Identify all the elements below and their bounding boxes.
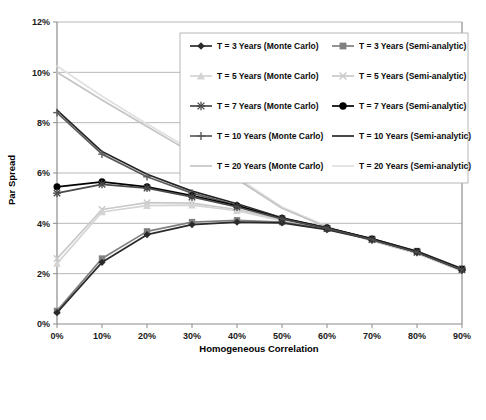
legend-entry-label: T = 3 Years (Semi-analytic)	[359, 41, 466, 51]
y-tick-label: 6%	[37, 168, 50, 178]
data-point-marker-star	[458, 266, 466, 274]
y-tick-label: 8%	[37, 118, 50, 128]
series-line	[57, 220, 462, 311]
legend-entry-label: T = 7 Years (Semi-analytic)	[359, 101, 466, 111]
legend-entry-label: T = 20 Years (Monte Carlo)	[217, 161, 324, 171]
chart-container: 0%2%4%6%8%10%12% 0%10%20%30%40%50%60%70%…	[0, 0, 486, 420]
x-tick-label: 20%	[138, 331, 156, 341]
data-point-marker-star	[53, 189, 61, 197]
legend-entry-label: T = 3 Years (Monte Carlo)	[217, 41, 319, 51]
series-line	[57, 222, 462, 313]
x-axis-title: Homogeneous Correlation	[199, 343, 318, 354]
y-tick-label: 2%	[37, 269, 50, 279]
data-point-marker-star	[413, 248, 421, 256]
series-line	[57, 182, 462, 269]
x-tick-label: 0%	[50, 331, 63, 341]
y-tick-label: 10%	[32, 68, 50, 78]
x-tick-label: 10%	[93, 331, 111, 341]
legend-entry-label: T = 10 Years (Monte Carlo)	[217, 131, 324, 141]
data-point-marker-circle	[339, 102, 346, 109]
x-tick-label: 50%	[273, 331, 291, 341]
data-point-marker-star	[278, 215, 286, 223]
y-tick-label: 0%	[37, 319, 50, 329]
chart-legend: T = 3 Years (Monte Carlo)T = 3 Years (Se…	[180, 33, 471, 183]
x-tick-label: 40%	[228, 331, 246, 341]
data-point-marker-square	[340, 43, 347, 50]
x-tick-label: 80%	[408, 331, 426, 341]
x-axis-tick-labels: 0%10%20%30%40%50%60%70%80%90%	[50, 331, 471, 341]
data-point-marker-star	[188, 193, 196, 201]
data-point-marker-star	[197, 102, 205, 110]
x-tick-label: 70%	[363, 331, 381, 341]
x-tick-label: 60%	[318, 331, 336, 341]
data-point-marker-plus	[143, 173, 151, 181]
y-tick-label: 12%	[32, 17, 50, 27]
series-line	[57, 184, 462, 270]
y-axis-title: Par Spread	[6, 155, 17, 205]
y-tick-label: 4%	[37, 219, 50, 229]
y-axis-tick-labels: 0%2%4%6%8%10%12%	[32, 17, 50, 329]
x-tick-label: 90%	[453, 331, 471, 341]
legend-entry-label: T = 20 Years (Semi-analytic)	[359, 161, 471, 171]
x-tick-label: 30%	[183, 331, 201, 341]
legend-entry-label: T = 5 Years (Monte Carlo)	[217, 71, 319, 81]
series-0	[53, 218, 465, 316]
series-1	[54, 217, 465, 314]
legend-entry-label: T = 7 Years (Monte Carlo)	[217, 101, 319, 111]
data-point-marker-star	[143, 184, 151, 192]
par-spread-line-chart: 0%2%4%6%8%10%12% 0%10%20%30%40%50%60%70%…	[0, 0, 486, 420]
data-point-marker-star	[98, 180, 106, 188]
legend-entry-label: T = 5 Years (Semi-analytic)	[359, 71, 466, 81]
data-point-marker-star	[233, 203, 241, 211]
legend-entry-label: T = 10 Years (Semi-analytic)	[359, 131, 471, 141]
data-point-marker-star	[368, 236, 376, 244]
data-point-marker-star	[323, 224, 331, 232]
